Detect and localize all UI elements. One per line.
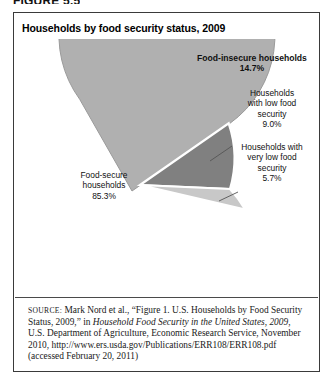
- label-very-low-food-security-text: Households with very low food security: [241, 142, 302, 173]
- label-food-insecure-group-value: 14.7%: [240, 63, 264, 73]
- label-low-food-security: Households with low food security 9.0%: [229, 88, 315, 130]
- label-low-food-security-text: Households with low food security: [248, 88, 296, 119]
- slice-very-low-food-security: [140, 185, 245, 210]
- figure-number-label: FIGURE 5.5: [13, 0, 80, 4]
- pie-chart: Food-insecure households14.7% Households…: [14, 39, 319, 297]
- label-food-secure-value: 85.3%: [56, 191, 152, 201]
- source-citation: SOURCE: Mark Nord et al., “Figure 1. U.S…: [28, 305, 306, 363]
- label-food-secure-text: Food-secure households: [80, 170, 127, 190]
- label-very-low-food-security: Households with very low food security 5…: [226, 142, 318, 184]
- source-divider: [15, 297, 318, 298]
- label-food-insecure-group-text: Food-insecure households: [197, 53, 307, 63]
- panel-title: Households by food security status, 2009: [22, 22, 225, 34]
- label-food-secure: Food-secure households 85.3%: [56, 170, 152, 201]
- source-italic-title: Household Food Security in the United St…: [93, 317, 288, 327]
- source-prefix: SOURCE:: [28, 306, 62, 315]
- label-low-food-security-value: 9.0%: [229, 119, 315, 129]
- label-food-insecure-group: Food-insecure households14.7%: [186, 53, 318, 74]
- figure-frame: Households by food security status, 2009…: [13, 12, 320, 372]
- label-very-low-food-security-value: 5.7%: [226, 173, 318, 183]
